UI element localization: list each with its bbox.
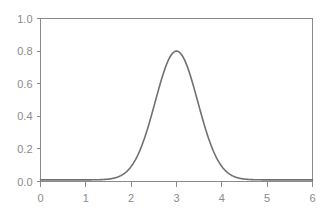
x-tick-label: 0 — [37, 192, 43, 204]
y-tick-label: 1.0 — [17, 13, 32, 25]
x-tick-label: 1 — [83, 192, 89, 204]
chart-figure: 0.00.20.40.60.81.0 0123456 — [0, 0, 329, 224]
y-tick-label: 0.8 — [17, 45, 32, 57]
y-tick-label: 0.0 — [17, 176, 32, 188]
x-tick-label: 4 — [219, 192, 225, 204]
y-tick-label: 0.2 — [17, 143, 32, 155]
y-tick-label: 0.4 — [17, 110, 32, 122]
x-tick-label: 2 — [128, 192, 134, 204]
x-tick-label: 3 — [173, 192, 179, 204]
x-tick-label: 5 — [264, 192, 270, 204]
y-tick-label: 0.6 — [17, 78, 32, 90]
gaussian-line-chart: 0.00.20.40.60.81.0 0123456 — [0, 0, 329, 224]
x-tick-label: 6 — [309, 192, 315, 204]
chart-background — [0, 0, 329, 224]
